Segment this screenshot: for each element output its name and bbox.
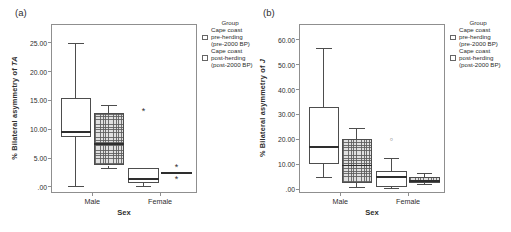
x-tick-mark bbox=[408, 193, 409, 196]
y-tick-label: 20.00 bbox=[30, 68, 47, 75]
x-tick-mark bbox=[160, 193, 161, 196]
panel-b: (b) % Bilateral asymmetry of J .0010.002… bbox=[248, 0, 503, 232]
panel-label: (a) bbox=[15, 7, 27, 18]
x-tick-mark bbox=[92, 193, 93, 196]
y-tick-mark bbox=[48, 100, 52, 101]
box-whisker-cap bbox=[136, 186, 152, 187]
y-axis-title-text: % Bilateral asymmetry of bbox=[258, 63, 267, 157]
legend-swatch-pre-white-icon bbox=[450, 35, 456, 41]
y-tick-label: 60.00 bbox=[278, 36, 295, 43]
outlier-extreme-marker: * bbox=[175, 163, 179, 172]
y-tick-mark bbox=[48, 71, 52, 72]
y-tick-mark bbox=[48, 42, 52, 43]
y-tick-label: 25.00 bbox=[30, 39, 47, 46]
y-tick-mark bbox=[296, 64, 300, 65]
plot-area: .005.0010.0015.0020.0025.00MaleFemale*** bbox=[51, 24, 197, 193]
y-axis-title: % Bilateral asymmetry of TA bbox=[10, 56, 19, 159]
x-category-label: Male bbox=[333, 197, 349, 206]
y-tick-mark bbox=[296, 39, 300, 40]
box-whisker-cap bbox=[68, 186, 84, 187]
y-tick-mark bbox=[48, 186, 52, 187]
box-whisker-cap bbox=[68, 43, 84, 44]
box-whisker-line bbox=[108, 105, 109, 113]
y-tick-mark bbox=[296, 164, 300, 165]
box-whisker-line bbox=[391, 158, 392, 170]
box-whisker-line bbox=[323, 49, 324, 107]
boxplot-box bbox=[128, 168, 158, 183]
box-whisker-line bbox=[75, 137, 76, 187]
legend-entry: Cape coastpre-herding(pre-2000 BP) bbox=[449, 27, 507, 48]
y-tick-mark bbox=[296, 189, 300, 190]
box-median-line bbox=[61, 131, 91, 133]
box-whisker-cap bbox=[384, 158, 400, 159]
y-tick-mark bbox=[296, 114, 300, 115]
y-tick-mark bbox=[48, 129, 52, 130]
y-axis-title: % Bilateral asymmetry of J bbox=[258, 59, 267, 157]
y-tick-label: 10.00 bbox=[278, 161, 295, 168]
boxplot-box bbox=[376, 171, 406, 187]
box-whisker-line bbox=[323, 164, 324, 177]
y-tick-label: 50.00 bbox=[278, 61, 295, 68]
box-whisker-line bbox=[75, 43, 76, 97]
x-tick-mark bbox=[340, 193, 341, 196]
y-tick-label: 40.00 bbox=[278, 86, 295, 93]
y-tick-mark bbox=[296, 89, 300, 90]
y-tick-label: 5.00 bbox=[34, 155, 47, 162]
boxplot-box bbox=[309, 107, 339, 164]
box-whisker-line bbox=[356, 128, 357, 139]
box-median-line bbox=[342, 165, 372, 167]
legend: Group Cape coastpre-herding(pre-2000 BP)… bbox=[449, 19, 507, 68]
box-whisker-cap bbox=[417, 173, 433, 174]
box-whisker-cap bbox=[349, 187, 365, 188]
box-whisker-cap bbox=[101, 105, 117, 106]
y-tick-label: .00 bbox=[286, 186, 295, 193]
box-median-line bbox=[309, 146, 339, 148]
y-tick-label: .00 bbox=[38, 183, 47, 190]
legend-swatch-post-hatched-icon bbox=[202, 55, 208, 61]
y-axis-title-text: % Bilateral asymmetry of bbox=[10, 66, 19, 160]
legend-title: Group bbox=[449, 19, 507, 26]
y-tick-mark bbox=[296, 139, 300, 140]
panel-label: (b) bbox=[263, 7, 275, 18]
box-whisker-cap bbox=[384, 188, 400, 189]
boxplot-box bbox=[342, 139, 372, 183]
box-median-line bbox=[409, 180, 439, 182]
box-median-line bbox=[128, 178, 158, 180]
legend-entry-line: (post-2000 BP) bbox=[459, 62, 507, 69]
legend-entry: Cape coastpost-herding(post-2000 BP) bbox=[449, 48, 507, 69]
figure: (a) % Bilateral asymmetry of TA .005.001… bbox=[0, 0, 511, 232]
y-axis-title-variable: J bbox=[258, 59, 267, 63]
x-category-label: Female bbox=[396, 197, 420, 206]
y-tick-label: 30.00 bbox=[278, 111, 295, 118]
box-whisker-cap bbox=[316, 48, 332, 49]
box-whisker-cap bbox=[349, 128, 365, 129]
outlier-extreme-marker: * bbox=[142, 107, 146, 116]
box-whisker-cap bbox=[101, 168, 117, 169]
x-category-label: Female bbox=[148, 197, 172, 206]
legend-swatch-pre-white-icon bbox=[202, 35, 208, 41]
outlier-mild-marker: ○ bbox=[390, 137, 393, 143]
boxplot-box bbox=[94, 113, 124, 165]
plot-area: .0010.0020.0030.0040.0050.0060.00MaleFem… bbox=[299, 24, 445, 193]
y-tick-mark bbox=[48, 158, 52, 159]
x-axis-title: Sex bbox=[365, 208, 379, 217]
box-whisker-cap bbox=[316, 177, 332, 178]
outlier-extreme-marker: * bbox=[175, 175, 179, 184]
x-category-label: Male bbox=[85, 197, 101, 206]
box-whisker-cap bbox=[417, 184, 433, 185]
y-axis-title-variable: TA bbox=[10, 56, 19, 66]
panel-a: (a) % Bilateral asymmetry of TA .005.001… bbox=[0, 0, 255, 232]
y-tick-label: 20.00 bbox=[278, 136, 295, 143]
box-median-line bbox=[94, 143, 124, 145]
x-axis-title: Sex bbox=[117, 208, 131, 217]
legend-swatch-post-hatched-icon bbox=[450, 55, 456, 61]
box-median-line bbox=[376, 176, 406, 178]
y-tick-label: 10.00 bbox=[30, 126, 47, 133]
y-tick-label: 15.00 bbox=[30, 97, 47, 104]
